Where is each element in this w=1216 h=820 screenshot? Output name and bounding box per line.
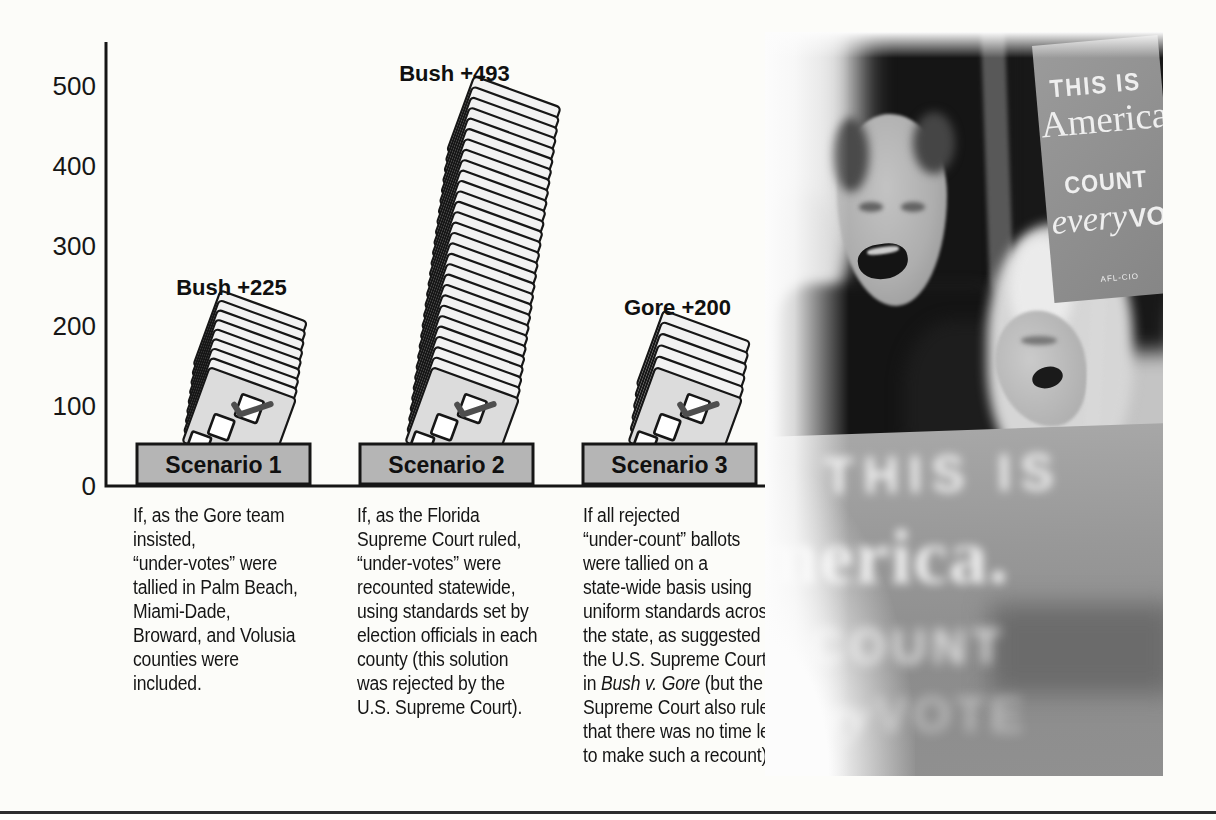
y-tick-label-400: 400 [53, 151, 96, 181]
y-tick-label-500: 500 [53, 71, 96, 101]
scenario-3-caption: If all rejected “under-count” ballots we… [583, 503, 783, 767]
sign-afl-cio-label: AFL-CIO [1100, 272, 1139, 284]
protester-man-eye [859, 202, 883, 212]
protester-man-eye [901, 202, 925, 212]
protest-photo: THIS IS America COUNT everyVOTE AFL-CIO … [765, 32, 1163, 776]
protest-sign: THIS IS America COUNT everyVOTE AFL-CIO [1032, 35, 1163, 303]
photo-feather-edge [765, 32, 1163, 58]
y-tick-label-100: 100 [53, 391, 96, 421]
scenario-label-2: Scenario 2 [388, 452, 504, 478]
y-tick-label-300: 300 [53, 231, 96, 261]
caption-text: If, as the Florida Supreme Court ruled, … [357, 504, 537, 718]
blurred-sign-shadow [990, 604, 1163, 694]
y-tick-label-200: 200 [53, 311, 96, 341]
protester-man-hair [913, 112, 955, 174]
sign-word-vote: VOTE [1128, 197, 1163, 233]
result-label-3: Gore +200 [624, 295, 731, 320]
photo-feather-edge [765, 32, 849, 776]
protester-woman-eye [1021, 336, 1057, 345]
ballot-stack-2 [346, 76, 617, 479]
caption-italic: Bush v. Gore [601, 672, 700, 694]
scenario-label-3: Scenario 3 [611, 452, 727, 478]
y-tick-label-0: 0 [82, 471, 96, 500]
scenario-2-caption: If, as the Florida Supreme Court ruled, … [357, 503, 537, 719]
sign-word-every: every [1050, 196, 1129, 241]
caption-text: If, as the Gore team insisted, “under-vo… [133, 504, 298, 694]
result-label-1: Bush +225 [176, 275, 287, 300]
page-bottom-rule [0, 811, 1216, 814]
scenario-label-1: Scenario 1 [165, 452, 282, 478]
caption-text: If all rejected “under-count” ballots we… [583, 504, 783, 694]
scenario-1-caption: If, as the Gore team insisted, “under-vo… [133, 503, 298, 695]
recount-bar-chart: 0100200300400500Scenario 1Bush +225Scena… [0, 0, 845, 500]
result-label-2: Bush +493 [399, 61, 510, 86]
sign-line: COUNT [1063, 165, 1148, 200]
